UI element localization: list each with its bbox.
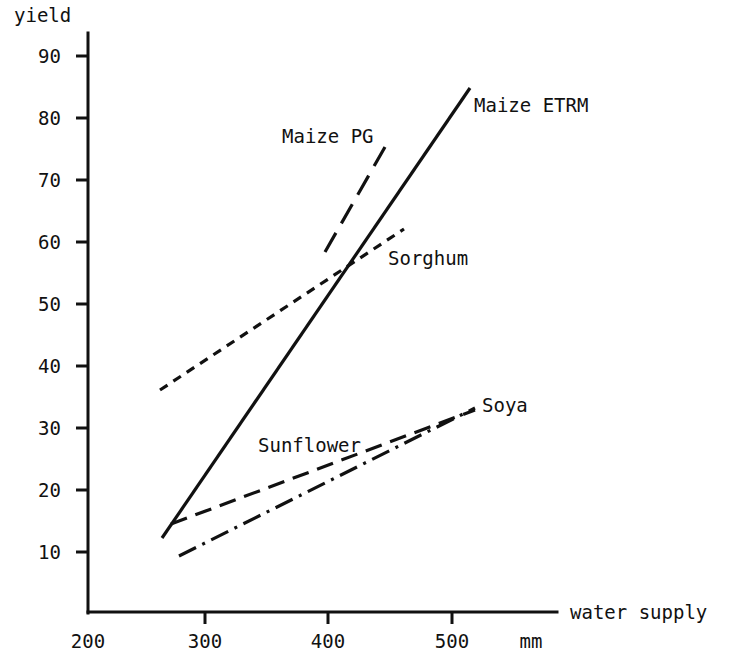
- series-line-maize-pg: [325, 147, 385, 252]
- series-line-sunflower: [171, 410, 475, 524]
- x-axis-tick-labels: 200 300 400 500 mm: [71, 630, 543, 652]
- x-tick-label-300: 300: [188, 630, 222, 652]
- series-line-maize-etrm: [162, 88, 470, 538]
- y-axis-title: yield: [14, 4, 71, 26]
- y-tick-label-30: 30: [38, 417, 61, 439]
- y-tick-label-10: 10: [38, 541, 61, 563]
- x-axis-unit-label: mm: [520, 630, 543, 652]
- y-tick-label-80: 80: [38, 107, 61, 129]
- series-label-soya: Soya: [482, 394, 528, 416]
- series-label-sorghum: Sorghum: [388, 247, 468, 269]
- chart-svg: yield 90 80 70 60 50 40 30 20 10: [0, 0, 737, 660]
- y-tick-label-90: 90: [38, 45, 61, 67]
- yield-vs-water-supply-chart: yield 90 80 70 60 50 40 30 20 10: [0, 0, 737, 660]
- y-tick-label-70: 70: [38, 169, 61, 191]
- y-tick-label-60: 60: [38, 231, 61, 253]
- series-line-sorghum: [160, 229, 404, 390]
- x-tick-label-400: 400: [311, 630, 345, 652]
- x-axis-title: water supply: [570, 601, 707, 623]
- series-label-maize-etrm: Maize ETRM: [474, 94, 588, 116]
- x-axis-ticks: [205, 612, 452, 624]
- x-tick-label-500: 500: [435, 630, 469, 652]
- series-line-soya: [179, 408, 475, 556]
- x-tick-label-200: 200: [71, 630, 105, 652]
- series-label-sunflower: Sunflower: [258, 434, 361, 456]
- y-tick-label-20: 20: [38, 479, 61, 501]
- y-axis-tick-labels: 90 80 70 60 50 40 30 20 10: [38, 45, 61, 563]
- y-tick-label-40: 40: [38, 355, 61, 377]
- y-tick-label-50: 50: [38, 293, 61, 315]
- series-label-maize-pg: Maize PG: [282, 125, 374, 147]
